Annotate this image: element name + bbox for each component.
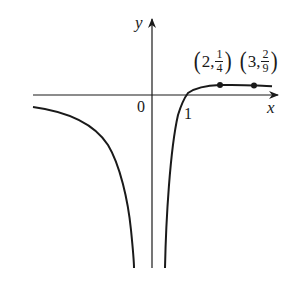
origin-label: 0 [137,99,145,115]
denominator: 4 [216,62,222,75]
comma: , [210,53,214,70]
comma: , [256,53,260,70]
graph-canvas [0,0,298,295]
point-2-quarter [217,82,223,88]
point-x-value: 2 [202,53,211,70]
close-paren: ) [271,48,278,74]
numerator: 1 [215,48,223,62]
close-paren: ) [225,48,232,74]
open-paren: ( [194,48,201,74]
point-label-3-two-ninths: ( 3 , 2 9 ) [239,48,279,74]
denominator: 9 [262,62,268,75]
x-axis-label: x [267,99,275,116]
point-3-two-ninths [251,83,257,89]
fraction-one-quarter: 1 4 [215,48,223,74]
tick-label-one: 1 [184,106,192,122]
fraction-two-ninths: 2 9 [261,48,269,74]
curve-right-branch [165,85,272,268]
point-x-value: 3 [248,53,257,70]
point-label-2-quarter: ( 2 , 1 4 ) [193,48,233,74]
numerator: 2 [261,48,269,62]
curve-left-branch [33,107,134,268]
open-paren: ( [240,48,247,74]
y-axis-label: y [135,14,143,31]
function-graph: y x 0 1 ( 2 , 1 4 ) ( 3 , 2 9 ) [0,0,298,295]
